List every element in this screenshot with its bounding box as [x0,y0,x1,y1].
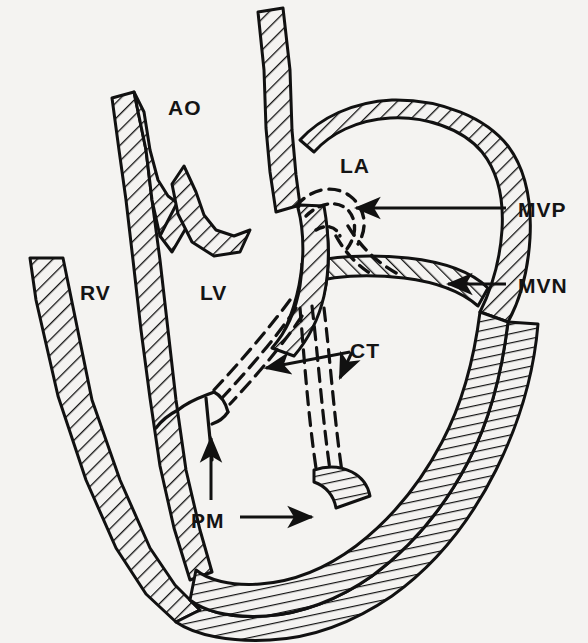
label-mvp: MVP [518,199,567,220]
label-ct: CT [350,340,380,361]
label-rv: RV [80,282,111,303]
heart-diagram-svg [0,0,588,643]
label-lv: LV [200,282,227,303]
label-pm: PM [191,510,225,531]
label-mvn: MVN [518,275,568,296]
label-la: LA [340,155,370,176]
label-ao: AO [168,97,202,118]
heart-diagram-figure: AO LA RV LV MVP MVN CT PM [0,0,588,643]
